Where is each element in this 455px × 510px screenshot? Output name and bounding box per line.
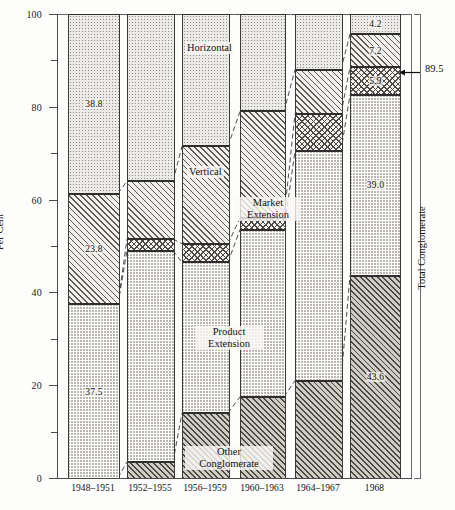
y-axis-title: Per Cent	[0, 214, 5, 250]
segment-value-label: 5.9	[368, 76, 382, 86]
y-tick-label-100: 100	[0, 9, 42, 20]
y-tick-100	[49, 14, 57, 15]
total-conglomerate-value: 89.5	[425, 63, 443, 74]
bar-1948-1951[interactable]: 37.523.838.8	[68, 14, 120, 478]
y-tick-80	[49, 107, 57, 108]
segment-horizontal[interactable]	[241, 14, 285, 111]
y-tick-label-20: 20	[0, 380, 42, 391]
segment-other-conglomerate[interactable]: 43.6	[351, 276, 400, 478]
segment-product-extension[interactable]	[128, 251, 174, 462]
x-axis-label-1948-1951: 1948–1951	[63, 483, 123, 493]
y-tick-label-40: 40	[0, 287, 42, 298]
x-axis-label-1952-1955: 1952–1955	[120, 483, 180, 493]
x-axis-label-1960-1963: 1960–1963	[232, 483, 292, 493]
segment-value-label: 4.2	[368, 19, 382, 29]
segment-other-conglomerate[interactable]	[296, 381, 342, 478]
bar-1952-1955[interactable]	[127, 14, 175, 478]
segment-market-extension[interactable]	[183, 244, 229, 263]
segment-product-extension[interactable]: 39.0	[351, 95, 400, 276]
segment-horizontal[interactable]	[183, 14, 229, 146]
y-tick-label-80: 80	[0, 101, 42, 112]
segment-value-label: 39.0	[366, 180, 385, 190]
segment-market-extension[interactable]	[296, 114, 342, 151]
label-other-conglomerate: Other Conglomerate	[185, 446, 273, 470]
y-tick-label-0: 0	[0, 473, 42, 484]
label-product-extension-line1: Product	[213, 326, 246, 337]
segment-other-conglomerate[interactable]	[128, 462, 174, 478]
segment-market-extension[interactable]	[128, 239, 174, 251]
segment-value-label: 23.8	[84, 244, 103, 254]
segment-value-label: 7.2	[368, 46, 382, 56]
segment-horizontal[interactable]	[128, 14, 174, 181]
segment-vertical[interactable]	[183, 146, 229, 243]
segment-product-extension[interactable]	[296, 151, 342, 381]
label-product-extension-line2: Extension	[208, 338, 250, 349]
y-tick-0	[49, 478, 57, 479]
segment-horizontal[interactable]: 4.2	[351, 14, 400, 33]
label-vertical: Vertical	[187, 166, 224, 178]
annotation-arrow-icon	[399, 68, 421, 77]
bar-1968[interactable]: 43.639.05.97.24.2	[350, 14, 401, 478]
segment-vertical[interactable]: 7.2	[351, 34, 400, 67]
label-product-extension: Product Extension	[195, 326, 263, 350]
label-other-conglomerate-line1: Other	[217, 446, 241, 457]
x-axis-label-1956-1959: 1956–1959	[175, 483, 235, 493]
y-tick-label-60: 60	[0, 194, 42, 205]
segment-product-extension[interactable]: 37.5	[69, 304, 119, 478]
segment-value-label: 43.6	[366, 372, 385, 382]
segment-horizontal[interactable]: 38.8	[69, 14, 119, 194]
label-market-extension-line2: Extension	[247, 209, 289, 220]
label-other-conglomerate-line2: Conglomerate	[199, 458, 258, 469]
segment-product-extension[interactable]	[241, 230, 285, 397]
segment-vertical[interactable]: 23.8	[69, 194, 119, 304]
bar-1964-1967[interactable]	[295, 14, 343, 478]
y-tick-20	[49, 385, 57, 386]
y-tick-60	[49, 200, 57, 201]
segment-horizontal[interactable]	[296, 14, 342, 70]
label-market-extension: Market Extension	[235, 197, 301, 221]
label-market-extension-line1: Market	[253, 197, 283, 208]
segment-vertical[interactable]	[296, 70, 342, 114]
segment-value-label: 38.8	[84, 99, 103, 109]
x-axis-line	[57, 478, 412, 479]
x-axis-label-1968: 1968	[345, 483, 405, 493]
total-conglomerate-bracket-label: Total Conglomerate	[416, 206, 427, 290]
bar-1956-1959[interactable]	[182, 14, 230, 478]
segment-market-extension[interactable]: 5.9	[351, 67, 400, 94]
y-tick-40	[49, 292, 57, 293]
plot-area: 37.523.838.843.639.05.97.24.2 Horizontal…	[57, 14, 412, 478]
segment-vertical[interactable]	[128, 181, 174, 239]
segment-value-label: 37.5	[84, 387, 103, 397]
label-horizontal: Horizontal	[185, 42, 234, 54]
bar-1960-1963[interactable]	[240, 14, 286, 478]
x-axis-label-1964-1967: 1964–1967	[288, 483, 348, 493]
stacked-bar-chart: Per Cent 020406080100 37.523.838.843.639…	[0, 0, 455, 510]
